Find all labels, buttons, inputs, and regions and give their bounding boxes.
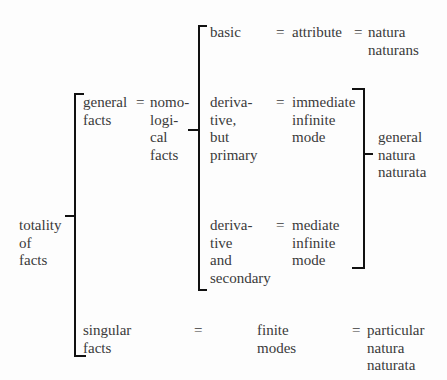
derivative-primary-eq: = [276,94,284,112]
basic-eq1: = [276,24,284,42]
general-bracket [198,25,200,291]
derivative-primary-label: deriva- tive, but primary [210,94,257,164]
derivative-secondary-label: deriva- tive and secondary [210,217,271,287]
infinite-mode-bracket-stem [365,153,373,155]
singular-eq1: = [194,322,202,340]
singular-eq2: = [352,322,360,340]
singular-facts-label: singular facts [83,322,131,357]
immediate-infinite-mode-label: immediate infinite mode [292,94,355,147]
finite-modes-label: finite modes [257,322,296,357]
mediate-infinite-mode-label: mediate infinite mode [292,217,339,270]
general-bracket-stem [188,129,198,131]
infinite-mode-bracket-bottom [352,267,365,269]
particular-natura-naturata-label: particular natura naturata [367,322,424,375]
general-bracket-bottom [198,289,207,291]
attribute-label: attribute [292,24,342,42]
infinite-mode-bracket [363,88,365,269]
root-bracket-stem [65,215,74,217]
general-eq: = [136,94,144,112]
natura-naturans-label: natura naturans [368,24,419,59]
root-bracket [74,93,76,357]
root-label: totality of facts [19,217,62,270]
nomological-label: nomo- logi- cal facts [150,94,189,164]
general-facts-label: general facts [83,94,127,129]
derivative-secondary-eq: = [276,217,284,235]
basic-label: basic [210,24,241,42]
infinite-mode-bracket-top [352,88,365,90]
general-natura-naturata-label: general natura naturata [378,129,426,182]
basic-eq2: = [354,24,362,42]
general-bracket-top [198,25,207,27]
